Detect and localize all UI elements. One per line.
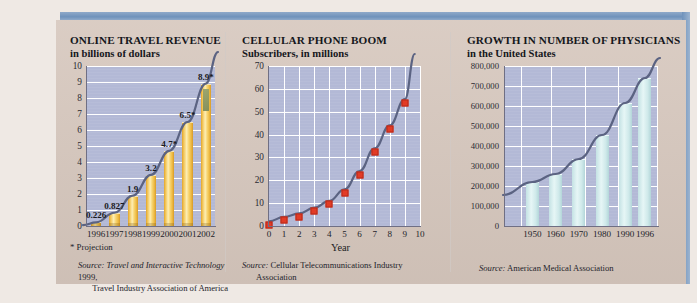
chart-3-y-tick-label: 0 <box>453 221 499 231</box>
chart-1-y-tick-label: 4 <box>60 157 82 167</box>
chart-1-data-label: 3.2 <box>134 163 168 173</box>
chart-2-source-org: Cellular Telecommunications Industry <box>271 260 403 270</box>
chart-3-source-org: American Medical Association <box>507 263 613 273</box>
panel-online-travel-revenue: ONLINE TRAVEL REVENUE in billions of dol… <box>56 20 228 284</box>
chart-2-y-axis <box>268 66 269 227</box>
chart-2-data-marker <box>266 221 273 228</box>
chart-3-trend-curve <box>505 54 664 226</box>
chart-2-plot-area <box>269 66 420 226</box>
top-accent-band <box>60 12 690 20</box>
chart-1-source-title: Travel and Interactive Technology <box>107 260 225 270</box>
chart-1-y-tick-label: 0 <box>60 221 82 231</box>
chart-3-x-tick-label: 1996 <box>630 229 660 239</box>
chart-1-y-tick-label: 6 <box>60 125 82 135</box>
panel-1-title: ONLINE TRAVEL REVENUE <box>70 34 221 46</box>
chart-1-data-label: 1.9 <box>116 184 150 194</box>
chart-2-source-org-cont: Association <box>242 272 447 284</box>
chart-3-plot-area <box>505 66 658 226</box>
chart-3-y-tick-label: 600,000 <box>453 101 499 111</box>
chart-1-y-tick-label: 3 <box>60 173 82 183</box>
chart-1-source-year: 1999, <box>78 272 97 282</box>
chart-1-y-tick-label: 8 <box>60 93 82 103</box>
chart-1-source: Source: Travel and Interactive Technolog… <box>78 260 228 295</box>
chart-2-data-marker <box>371 148 378 155</box>
chart-2-data-marker <box>326 201 333 208</box>
chart-1-data-label: 6.5* <box>171 110 205 120</box>
panel-2-title: CELLULAR PHONE BOOM <box>242 34 387 46</box>
chart-3-y-tick-label: 700,000 <box>453 81 499 91</box>
chart-2-y-tick-label: 10 <box>242 198 264 208</box>
chart-1-data-label: 0.827 <box>97 201 131 211</box>
chart-1-data-label: 8.9* <box>189 72 223 82</box>
chart-1-x-axis <box>86 226 216 227</box>
panel-growth-number-of-physicians: GROWTH IN NUMBER OF PHYSICIANS in the Un… <box>453 20 686 284</box>
chart-2-source: Source: Cellular Telecommunications Indu… <box>242 260 447 283</box>
chart-2-y-tick-label: 30 <box>242 152 264 162</box>
chart-1-source-lead: Source: <box>78 260 104 270</box>
panel-3-title: GROWTH IN NUMBER OF PHYSICIANS <box>467 34 680 46</box>
chart-2-data-marker <box>356 171 363 178</box>
three-chart-card: ONLINE TRAVEL REVENUE in billions of dol… <box>56 20 686 284</box>
chart-3-source-lead: Source: <box>479 263 505 273</box>
chart-2-y-tick-label: 50 <box>242 107 264 117</box>
chart-3-y-tick-label: 800,000 <box>453 61 499 71</box>
chart-2-y-tick-label: 60 <box>242 84 264 94</box>
chart-3-source: Source: American Medical Association <box>479 263 679 275</box>
figure-page: ONLINE TRAVEL REVENUE in billions of dol… <box>0 0 697 303</box>
chart-1-y-tick-label: 2 <box>60 189 82 199</box>
chart-1-x-tick-label: 2002 <box>191 229 221 239</box>
panel-cellular-phone-boom: CELLULAR PHONE BOOM Subscribers, in mill… <box>228 20 453 284</box>
chart-2-y-tick-label: 70 <box>242 61 264 71</box>
chart-2-data-marker <box>281 217 288 224</box>
chart-3-y-tick-label: 500,000 <box>453 121 499 131</box>
chart-2-x-tick-label: 10 <box>411 229 429 239</box>
chart-2-x-axis <box>268 226 421 227</box>
chart-2-data-marker <box>401 99 408 106</box>
chart-2-y-tick-label: 20 <box>242 175 264 185</box>
chart-2-source-lead: Source: <box>242 260 268 270</box>
chart-2-data-marker <box>341 189 348 196</box>
chart-1-y-tick-label: 5 <box>60 141 82 151</box>
chart-1-y-tick-label: 10 <box>60 61 82 71</box>
chart-3-x-axis <box>504 226 659 227</box>
chart-1-y-tick-label: 7 <box>60 109 82 119</box>
chart-1-y-tick-label: 9 <box>60 77 82 87</box>
chart-3-y-tick-label: 300,000 <box>453 161 499 171</box>
chart-2-x-axis-label: Year <box>228 242 453 253</box>
chart-3-y-axis <box>504 66 505 227</box>
chart-2-trend-curve <box>269 52 426 226</box>
chart-2-data-marker <box>311 208 318 215</box>
chart-1-source-org: Travel Industry Association of America <box>78 283 228 295</box>
chart-1-projection-note: * Projection <box>70 242 113 252</box>
chart-1-y-axis <box>86 66 87 227</box>
chart-2-data-marker <box>296 213 303 220</box>
chart-3-y-tick-label: 200,000 <box>453 181 499 191</box>
chart-2-data-marker <box>386 125 393 132</box>
chart-3-y-tick-label: 100,000 <box>453 201 499 211</box>
chart-3-y-tick-label: 400,000 <box>453 141 499 151</box>
chart-2-y-tick-label: 40 <box>242 130 264 140</box>
chart-1-data-label: 0.226 <box>79 210 113 220</box>
chart-1-data-label: 4.7* <box>152 139 186 149</box>
